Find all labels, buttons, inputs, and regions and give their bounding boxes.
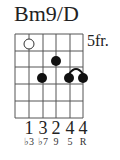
finger-dot xyxy=(78,73,88,83)
finger-dot xyxy=(51,56,61,66)
open-circle-marker xyxy=(24,39,34,49)
interval-labels: ♭3 ♭7 9 5 R xyxy=(0,136,120,150)
interval-label: ♭7 xyxy=(38,136,48,147)
finger-dot xyxy=(64,73,74,83)
finger-dot xyxy=(37,73,47,83)
barre-arc xyxy=(69,69,83,74)
interval-label: 9 xyxy=(54,136,59,147)
interval-label: ♭3 xyxy=(24,136,34,147)
interval-label: 5 xyxy=(68,136,73,147)
finger-numbers: 1 3 2 4 4 xyxy=(0,118,120,138)
interval-label: R xyxy=(80,136,87,147)
